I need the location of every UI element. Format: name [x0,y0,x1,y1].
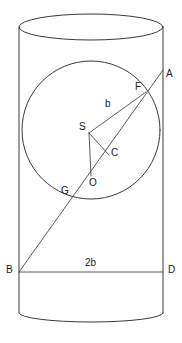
point-label-C: C [111,148,118,158]
figure-canvas [0,0,182,343]
point-label-D: D [168,265,175,275]
point-label-A: A [166,69,173,79]
cylinder-bottom-arc [19,313,163,322]
cylinder-top-ellipse [19,14,163,40]
point-label-O: O [89,178,97,188]
segment-S-O [89,133,91,176]
point-label-G: G [61,186,69,196]
diameter-length-label: 2b [85,258,96,268]
point-label-S: S [79,122,86,132]
point-label-F: F [135,82,141,92]
radius-length-label: b [105,99,111,109]
geometry-figure: A B C D F G O S b 2b [0,0,182,343]
segment-S-F [89,92,146,133]
point-label-B: B [6,265,13,275]
segment-S-C [89,133,109,155]
